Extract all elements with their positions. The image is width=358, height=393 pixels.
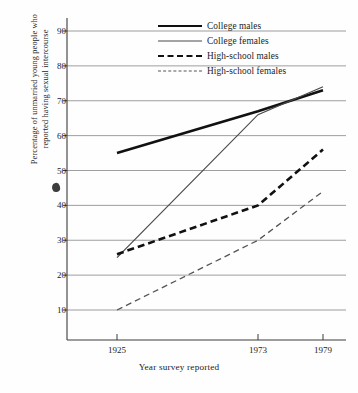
y-tick-label: 30	[40, 235, 66, 245]
x-tick-label: 1973	[238, 345, 278, 355]
legend-item-high-school-females: High-school females	[158, 63, 348, 78]
series-line-high-school-females	[117, 191, 323, 310]
legend-swatch-dashed-thin-icon	[158, 66, 202, 76]
y-tick-label: 90	[40, 26, 66, 36]
x-axis-title: Year survey reported	[0, 362, 358, 372]
legend-label-college-females: College females	[207, 36, 269, 46]
legend-label-high-school-females: High-school females	[207, 66, 286, 76]
chart-legend: College males College females High-schoo…	[158, 18, 348, 78]
legend-swatch-dashed-thick-icon	[158, 51, 202, 61]
legend-item-high-school-males: High-school males	[158, 48, 348, 63]
series-layer	[117, 87, 323, 310]
y-tick-label: 10	[40, 305, 66, 315]
x-tick-marks	[117, 334, 323, 340]
legend-label-high-school-males: High-school males	[207, 51, 279, 61]
series-line-high-school-males	[117, 150, 323, 255]
legend-swatch-solid-thick-icon	[158, 21, 202, 31]
y-tick-label: 60	[40, 131, 66, 141]
series-line-college-females	[117, 87, 323, 258]
y-tick-label: 40	[40, 200, 66, 210]
y-tick-label: 70	[40, 96, 66, 106]
y-tick-label: 80	[40, 61, 66, 71]
chart-figure: Percentage of unmarried young people who…	[0, 0, 358, 393]
legend-item-college-males: College males	[158, 18, 348, 33]
y-tick-label: 50	[40, 166, 66, 176]
x-tick-label: 1979	[303, 345, 343, 355]
y-tick-labels: 102030405060708090	[36, 0, 66, 393]
x-tick-label: 1925	[97, 345, 137, 355]
legend-item-college-females: College females	[158, 33, 348, 48]
y-tick-label: 20	[40, 270, 66, 280]
legend-label-college-males: College males	[207, 21, 261, 31]
legend-swatch-solid-thin-icon	[158, 36, 202, 46]
